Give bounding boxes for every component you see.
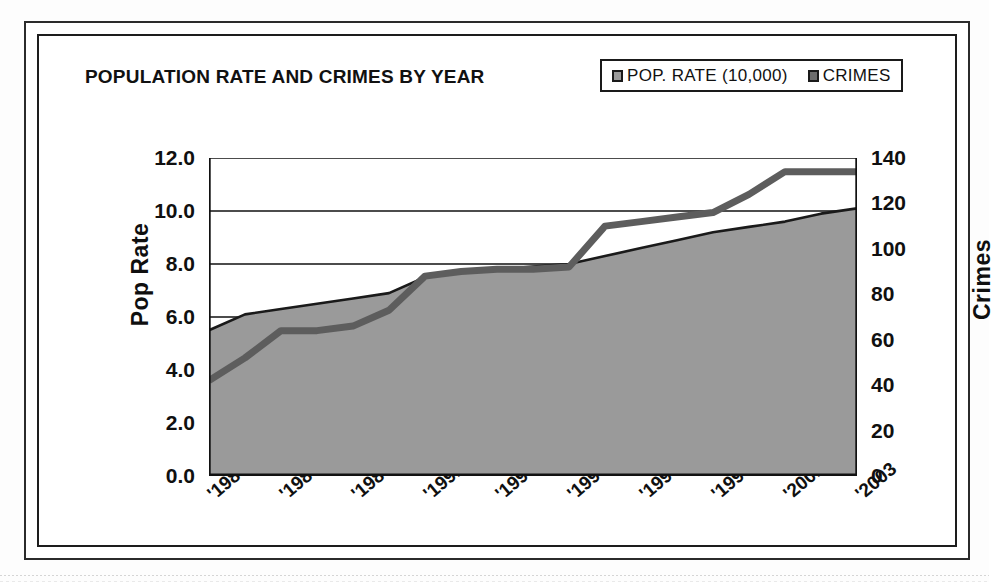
y-axis-tick-labels-left: 0.02.04.06.08.010.012.0 — [127, 158, 195, 476]
chart-outer-border: POPULATION RATE AND CRIMES BY YEAR POP. … — [24, 21, 970, 560]
chart-inner-border: POPULATION RATE AND CRIMES BY YEAR POP. … — [37, 34, 957, 547]
legend-swatch-icon-pop-rate — [612, 70, 623, 82]
y-tick-label-right: 100 — [871, 237, 906, 261]
y-axis-tick-labels-right: 020406080100120140 — [871, 158, 931, 476]
x-axis-tick-labels: '1985'1987'1989'1991'1993'1995'1997'1999… — [209, 482, 857, 552]
y-tick-label-right: 80 — [871, 282, 894, 306]
y-tick-label-left: 0.0 — [166, 464, 195, 488]
legend-entry-pop-rate: POP. RATE (10,000) — [612, 66, 788, 86]
y-tick-label-left: 10.0 — [154, 199, 195, 223]
y-tick-label-left: 4.0 — [166, 358, 195, 382]
y-tick-label-left: 6.0 — [166, 305, 195, 329]
legend-label-crimes: CRIMES — [823, 66, 891, 86]
y-axis-title-right: Crimes — [969, 215, 995, 345]
chart-legend: POP. RATE (10,000) CRIMES — [600, 59, 903, 92]
plot-area — [209, 158, 857, 476]
y-tick-label-right: 120 — [871, 191, 906, 215]
y-tick-label-right: 140 — [871, 146, 906, 170]
scan-artifact-line — [0, 575, 989, 576]
y-tick-label-left: 12.0 — [154, 146, 195, 170]
chart-canvas — [209, 158, 857, 476]
chart-title: POPULATION RATE AND CRIMES BY YEAR — [85, 66, 485, 88]
y-tick-label-right: 40 — [871, 373, 894, 397]
y-tick-label-right: 20 — [871, 419, 894, 443]
legend-entry-crimes: CRIMES — [808, 66, 891, 86]
y-tick-label-left: 8.0 — [166, 252, 195, 276]
legend-swatch-icon-crimes — [808, 70, 819, 82]
legend-label-pop-rate: POP. RATE (10,000) — [627, 66, 788, 86]
series-area-pop-rate — [209, 208, 857, 476]
y-tick-label-right: 60 — [871, 328, 894, 352]
y-tick-label-left: 2.0 — [166, 411, 195, 435]
